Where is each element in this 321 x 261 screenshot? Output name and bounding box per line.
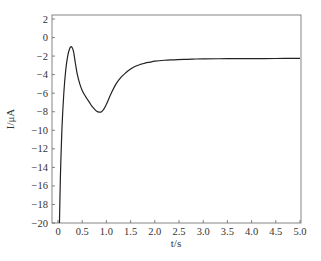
x-tick-label: 1.0 (100, 226, 113, 237)
y-axis-ticks: 20−2−4−6−8−10−12−14−16−18−20 (32, 14, 55, 229)
plot-frame (52, 15, 301, 223)
x-tick-label: 2.0 (148, 226, 161, 237)
y-tick-label: 0 (43, 32, 48, 43)
x-tick-label: 2.5 (172, 226, 185, 237)
current-curve (59, 47, 300, 223)
x-tick-label: 5.0 (293, 226, 306, 237)
x-tick-label: 4.5 (269, 226, 282, 237)
y-tick-label: −18 (32, 199, 48, 210)
y-tick-label: −16 (32, 180, 48, 191)
x-tick-label: 1.5 (124, 226, 137, 237)
x-tick-label: 4.0 (245, 226, 258, 237)
x-tick-label: 0 (55, 226, 60, 237)
y-tick-label: −10 (32, 125, 48, 136)
x-tick-label: 3.5 (221, 226, 234, 237)
chart: 20−2−4−6−8−10−12−14−16−18−20 00.51.01.52… (0, 0, 321, 261)
y-tick-label: −14 (32, 162, 49, 173)
y-tick-label: −12 (32, 143, 48, 154)
x-axis-label: t/s (171, 237, 181, 249)
y-tick-label: −4 (37, 69, 49, 80)
x-tick-label: 0.5 (76, 226, 89, 237)
x-axis-ticks: 00.51.01.52.02.53.03.54.04.55.0 (55, 220, 306, 237)
y-tick-label: −6 (37, 88, 48, 99)
y-tick-label: 2 (43, 14, 48, 25)
y-axis-label: I/μA (4, 109, 16, 130)
y-tick-label: −8 (37, 106, 48, 117)
y-tick-label: −20 (32, 218, 48, 229)
x-tick-label: 3.0 (197, 226, 210, 237)
y-tick-label: −2 (37, 51, 48, 62)
